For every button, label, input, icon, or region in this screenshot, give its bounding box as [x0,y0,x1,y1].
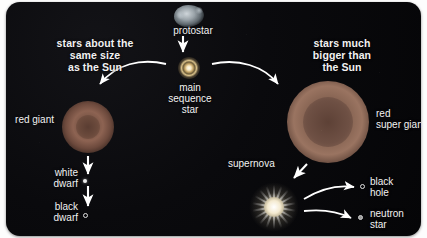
arrow-mainsequence-to-supergiant [212,62,278,84]
red-giant-core [76,115,100,139]
black-dwarf-marker [83,213,88,218]
red-super-giant-icon [287,81,369,163]
supernova-icon [249,182,299,232]
star-lifecycle-panel: stars about the same size as the Sun sta… [6,2,421,236]
black-hole-marker [360,184,365,189]
protostar-icon [174,5,204,27]
label-black-hole: black hole [370,176,421,198]
branch-header-sun-sized: stars about the same size as the Sun [36,38,154,73]
neutron-star-marker [358,215,363,220]
arrow-supernova-to-blackhole [304,186,354,199]
supernova-core [264,197,284,217]
main-sequence-star-icon [178,57,200,79]
label-supernova: supernova [228,158,308,169]
label-neutron-star: neutron star [370,208,421,230]
protostar-lobe-left [176,11,185,19]
arrow-supernova-to-neutronstar [304,210,351,218]
label-protostar: protostar [149,25,237,36]
red-super-giant-core [303,97,353,147]
label-main-sequence-star: main sequence star [150,82,230,116]
red-giant-icon [62,101,114,153]
label-red-super-giant: red super giant [376,108,421,130]
label-black-dwarf: black dwarf [28,201,78,223]
diagram-canvas: stars about the same size as the Sun sta… [0,0,427,238]
branch-header-massive: stars much bigger than the Sun [287,38,397,73]
protostar-lobe-right [195,7,203,14]
label-red-giant: red giant [6,114,54,125]
label-white-dwarf: white dwarf [28,167,78,189]
white-dwarf-marker [83,179,87,183]
